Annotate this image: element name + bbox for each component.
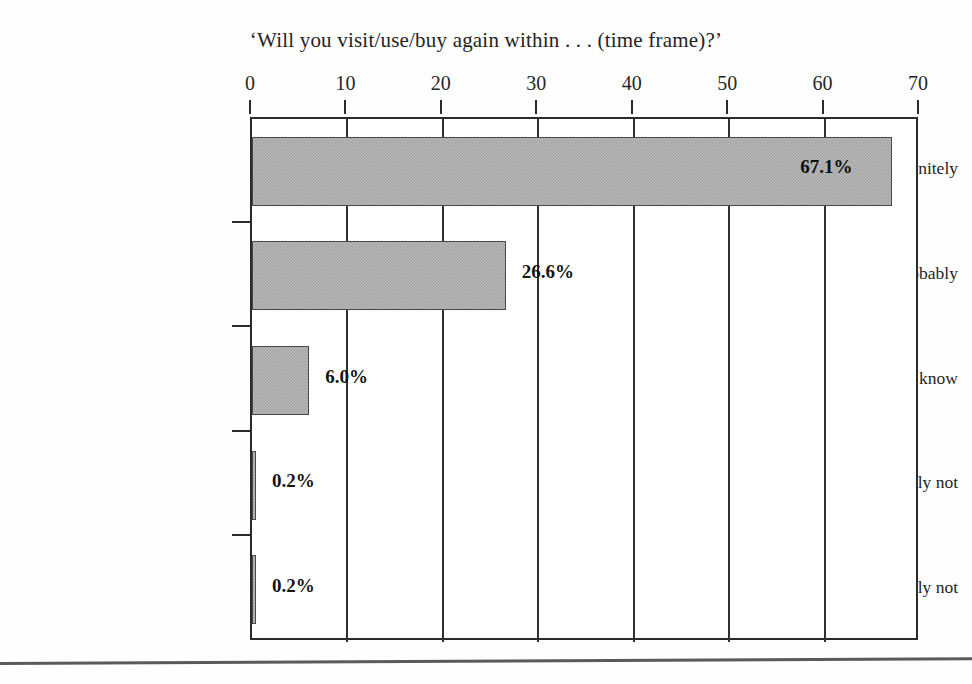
x-axis-tick [917,100,919,114]
bar [252,137,892,206]
footer-rule [0,657,972,665]
bar [252,241,506,310]
y-axis-tick [232,221,252,223]
y-axis-tick [232,325,252,327]
bar [252,555,256,624]
x-axis-tick-label: 50 [697,72,757,95]
x-axis-tick [344,100,346,114]
chart-title: ‘Will you visit/use/buy again within . .… [0,28,972,53]
x-axis-tick [822,100,824,114]
x-axis-tick-label: 30 [506,72,566,95]
y-axis-tick [232,534,252,536]
x-axis-tick-label: 70 [888,72,948,95]
bar-value-label: 0.2% [272,575,315,597]
x-axis-tick [249,100,251,114]
x-axis-tick-label: 0 [220,72,280,95]
x-axis-tick-label: 10 [315,72,375,95]
bar-value-label: 6.0% [325,366,368,388]
bar-value-label: 26.6% [522,261,574,283]
bar-value-label: 67.1% [800,156,852,178]
x-axis-tick-label: 20 [411,72,471,95]
x-axis-tick [440,100,442,114]
x-axis-tick-label: 40 [602,72,662,95]
bar [252,346,309,415]
x-axis-tick [535,100,537,114]
x-axis-tick-label: 60 [793,72,853,95]
x-axis-tick [726,100,728,114]
chart-page: ‘Will you visit/use/buy again within . .… [0,0,972,684]
bar-value-label: 0.2% [272,470,315,492]
y-axis-tick [232,430,252,432]
x-axis-tick [631,100,633,114]
bar [252,451,256,520]
